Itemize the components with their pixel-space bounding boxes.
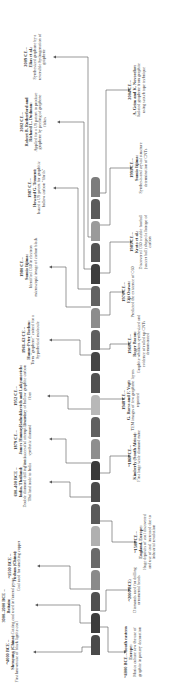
event-description: Term "graphene" coined for a hypothetica… bbox=[31, 309, 40, 371]
event-description: Huge deposits of coal discovered and use… bbox=[143, 511, 157, 573]
timeline-segment bbox=[91, 483, 100, 503]
event-rutherford-dudman: 2002 CE – Robert B. Rutherford and Richa… bbox=[20, 91, 48, 153]
timeline-segment bbox=[91, 417, 100, 437]
event-elias: 2009 CE – Elias et al.: Synthesized grap… bbox=[24, 26, 47, 88]
event-description: Isolated graphene from graphite using sc… bbox=[137, 59, 146, 121]
event-radushkevich: 1952 CE – Radushkevich and Lukyanovich: … bbox=[14, 365, 32, 427]
timeline-segment bbox=[91, 243, 100, 263]
event-description: Discovery of hollow graphite carbon fibe… bbox=[23, 365, 32, 427]
timeline-segment bbox=[91, 330, 100, 350]
timeline-diagram: ~4000 BCE – Shenyang (China): First know… bbox=[0, 0, 180, 693]
event-iijima-1980: 1980 CE – Sumio Iijima: Identified C60 i… bbox=[20, 236, 38, 298]
timeline-segment bbox=[91, 308, 100, 328]
timeline-segment bbox=[91, 439, 100, 459]
event-description: TEM images of few graphene layers report… bbox=[131, 369, 140, 431]
event-description: Applied for a US patent to produce graph… bbox=[34, 91, 48, 153]
event-description: Synthesis and crystal structure determin… bbox=[139, 137, 148, 199]
timeline-segment bbox=[91, 264, 100, 284]
event-fushun: ~1500 BCE – Fushun (China): Coal used fo… bbox=[8, 535, 22, 597]
event-description: Discovered C60 a stable football (soccer… bbox=[139, 211, 153, 273]
event-boehm: 1961–62 CE – Hanns-Peter Boehm: Term "gr… bbox=[22, 309, 40, 371]
event-kroto: 1985 CE – Kroto et al.: Discovered C60 a… bbox=[130, 211, 153, 273]
event-description: Issued a US patent for graphitic hollow … bbox=[37, 157, 46, 219]
timeline-segment bbox=[91, 199, 100, 219]
timeline-segment bbox=[91, 286, 100, 306]
event-description: First known use of black lignite coal bbox=[15, 621, 20, 683]
event-description: First large scale diamond mine bbox=[137, 425, 142, 487]
timeline-segment bbox=[91, 177, 100, 197]
event-ruess-vogt: 1948 CE – G. Ruess and F. Vogt: TEM imag… bbox=[122, 369, 140, 431]
timeline-segment bbox=[91, 221, 100, 241]
event-description: Marica culture saw the use of graphite i… bbox=[133, 621, 142, 683]
timeline-segment bbox=[91, 635, 100, 655]
event-marica: ~4000 BCE – South eastern Europe: Marica… bbox=[124, 621, 142, 683]
timeline-segment bbox=[91, 373, 100, 393]
event-england-coal: ~1500 CE – England, Europe: Huge deposit… bbox=[134, 511, 157, 573]
timeline-segment bbox=[91, 548, 100, 568]
event-description: Graphite whiskers synthesized and eviden… bbox=[137, 313, 151, 375]
timeline-bar bbox=[91, 177, 100, 655]
event-description: Identified C60 in electron microscopic i… bbox=[29, 236, 38, 298]
timeline-segment bbox=[91, 395, 100, 415]
timeline-segment bbox=[91, 526, 100, 546]
event-kimberly: ~1860 CE – Kimberly (South Africa): Firs… bbox=[128, 425, 142, 487]
event-iijima-1991: 1991 CE – Sumio Iijima: Synthesis and cr… bbox=[130, 137, 148, 199]
timeline-segment bbox=[91, 461, 100, 481]
timeline-segment bbox=[91, 570, 100, 590]
event-geim-novoselov: 2004 CE – A. Geim and K. Novoselov: Isol… bbox=[128, 59, 146, 121]
timeline-segment bbox=[91, 352, 100, 372]
timeline-segment bbox=[91, 504, 100, 524]
event-tennent: 1987 CE – Howard G. Tennent: Issued a US… bbox=[28, 157, 46, 219]
timeline-segment bbox=[91, 613, 100, 633]
timeline-segment bbox=[91, 592, 100, 612]
event-description: Coal used for smelting copper bbox=[17, 535, 22, 597]
event-description: Synthesized graphane by a reversible hyd… bbox=[33, 26, 47, 88]
